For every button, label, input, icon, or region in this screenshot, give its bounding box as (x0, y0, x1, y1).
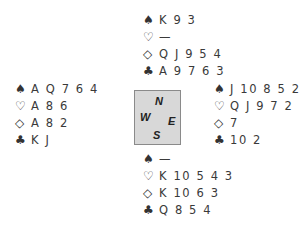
heart-icon: ♡ (214, 98, 230, 115)
club-icon: ♣ (15, 132, 31, 149)
club-icon: ♣ (143, 202, 159, 219)
south-hearts: ♡K 10 5 4 3 (143, 168, 234, 185)
compass-south: S (153, 129, 160, 141)
west-spades: ♠A Q 7 6 4 (15, 81, 99, 98)
east-clubs: ♣10 2 (214, 132, 301, 149)
east-hand: ♠J 10 8 5 2 ♡Q J 9 7 2 ◇7 ♣10 2 (214, 81, 301, 149)
east-spades: ♠J 10 8 5 2 (214, 81, 301, 98)
compass-box: N W E S (134, 90, 181, 145)
diamond-icon: ◇ (214, 115, 230, 132)
spade-icon: ♠ (143, 12, 159, 29)
south-clubs: ♣Q 8 5 4 (143, 202, 234, 219)
compass-east: E (168, 115, 175, 127)
spade-icon: ♠ (143, 151, 159, 168)
west-diamonds: ◇A 8 2 (15, 115, 99, 132)
heart-icon: ♡ (143, 29, 159, 46)
spade-icon: ♠ (214, 81, 230, 98)
heart-icon: ♡ (15, 98, 31, 115)
club-icon: ♣ (143, 63, 159, 80)
north-spades: ♠K 9 3 (143, 12, 225, 29)
south-spades: ♠— (143, 151, 234, 168)
club-icon: ♣ (214, 132, 230, 149)
diamond-icon: ◇ (143, 185, 159, 202)
diamond-icon: ◇ (15, 115, 31, 132)
compass-north: N (155, 95, 163, 107)
compass-west: W (140, 111, 150, 123)
east-diamonds: ◇7 (214, 115, 301, 132)
south-diamonds: ◇K 10 6 3 (143, 185, 234, 202)
spade-icon: ♠ (15, 81, 31, 98)
west-hearts: ♡A 8 6 (15, 98, 99, 115)
south-hand: ♠— ♡K 10 5 4 3 ◇K 10 6 3 ♣Q 8 5 4 (143, 151, 234, 219)
north-clubs: ♣A 9 7 6 3 (143, 63, 225, 80)
diamond-icon: ◇ (143, 46, 159, 63)
heart-icon: ♡ (143, 168, 159, 185)
west-hand: ♠A Q 7 6 4 ♡A 8 6 ◇A 8 2 ♣K J (15, 81, 99, 149)
north-diamonds: ◇Q J 9 5 4 (143, 46, 225, 63)
east-hearts: ♡Q J 9 7 2 (214, 98, 301, 115)
north-hearts: ♡— (143, 29, 225, 46)
west-clubs: ♣K J (15, 132, 99, 149)
north-hand: ♠K 9 3 ♡— ◇Q J 9 5 4 ♣A 9 7 6 3 (143, 12, 225, 80)
